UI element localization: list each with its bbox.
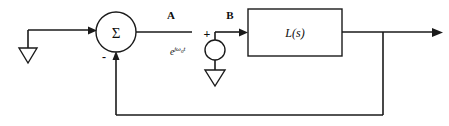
forward-wire-b [215,29,248,37]
block-diagram-figure: Σ - A + ejω0t [0,0,449,126]
svg-text:ejω0t: ejω0t [170,45,186,58]
summing-junction: Σ [96,12,136,52]
injection-source: + [204,27,225,70]
node-label-a: A [167,9,175,21]
block-diagram-svg: Σ - A + ejω0t [0,0,449,126]
source-label-t: t [183,45,186,52]
ground-source-icon [205,70,225,86]
injection-plus-sign: + [204,27,211,41]
injection-source-label: ejω0t [170,45,186,58]
plant-block-label: L(s) [284,26,304,40]
ground-input-icon [19,30,37,63]
plant-block: L(s) [248,9,342,56]
node-label-b: B [226,9,234,21]
summing-junction-symbol: Σ [112,25,121,41]
input-wire [28,27,97,35]
output-wire [342,28,443,37]
feedback-minus-sign: - [102,50,106,64]
